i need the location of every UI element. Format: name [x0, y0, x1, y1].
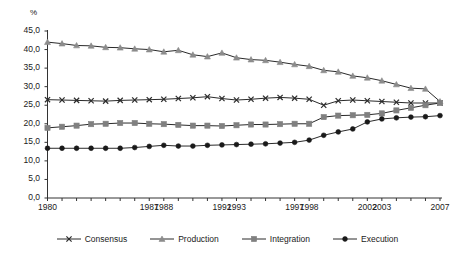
- data-point-circle: [234, 142, 239, 147]
- data-point-circle: [118, 146, 123, 151]
- legend-marker-triangle-icon: [149, 234, 175, 244]
- data-point-circle: [343, 237, 348, 242]
- data-point-square: [89, 122, 94, 127]
- legend-item-execution[interactable]: Execution: [332, 234, 398, 244]
- series-integration: [45, 100, 443, 130]
- data-point-square: [74, 123, 79, 128]
- data-point-square: [321, 114, 326, 119]
- legend-label: Execution: [361, 234, 398, 244]
- plot-area: [0, 0, 454, 257]
- data-point-circle: [220, 143, 225, 148]
- legend-label: Production: [178, 234, 219, 244]
- data-point-circle: [89, 146, 94, 151]
- legend-marker-square-icon: [241, 234, 267, 244]
- data-point-square: [292, 121, 297, 126]
- data-point-square: [248, 122, 253, 127]
- data-point-square: [277, 122, 282, 127]
- legend-marker-x-icon: [56, 234, 82, 244]
- data-point-square: [437, 100, 442, 105]
- data-point-circle: [190, 144, 195, 149]
- legend-item-production[interactable]: Production: [149, 234, 219, 244]
- legend-item-integration[interactable]: Integration: [241, 234, 310, 244]
- data-point-circle: [379, 117, 384, 122]
- data-point-x: [321, 103, 326, 108]
- data-point-circle: [409, 115, 414, 120]
- chart-legend: ConsensusProductionIntegrationExecution: [0, 234, 454, 244]
- data-point-square: [161, 122, 166, 127]
- data-point-square: [251, 236, 256, 241]
- data-point-triangle: [219, 50, 225, 55]
- data-point-square: [336, 113, 341, 118]
- data-point-circle: [103, 146, 108, 151]
- legend-label: Integration: [270, 234, 310, 244]
- data-point-square: [307, 121, 312, 126]
- data-point-circle: [423, 114, 428, 119]
- series-line: [48, 42, 441, 101]
- legend-marker-circle-icon: [332, 234, 358, 244]
- data-point-square: [190, 123, 195, 128]
- data-point-circle: [45, 146, 50, 151]
- data-point-circle: [307, 138, 312, 143]
- series-consensus: [45, 94, 443, 108]
- data-point-circle: [74, 146, 79, 151]
- series-execution: [45, 113, 442, 150]
- data-point-circle: [161, 143, 166, 148]
- data-point-circle: [205, 143, 210, 148]
- data-point-square: [408, 105, 413, 110]
- data-point-square: [234, 123, 239, 128]
- data-point-circle: [336, 130, 341, 135]
- data-point-circle: [263, 141, 268, 146]
- data-point-square: [379, 111, 384, 116]
- data-point-circle: [249, 142, 254, 147]
- legend-label: Consensus: [85, 234, 128, 244]
- data-point-circle: [321, 133, 326, 138]
- data-point-triangle: [175, 47, 181, 52]
- data-point-square: [147, 121, 152, 126]
- data-point-circle: [350, 127, 355, 132]
- data-point-square: [176, 122, 181, 127]
- data-point-circle: [394, 115, 399, 120]
- data-point-square: [59, 124, 64, 129]
- data-point-circle: [176, 144, 181, 149]
- data-point-circle: [147, 144, 152, 149]
- data-point-square: [118, 120, 123, 125]
- data-point-circle: [278, 141, 283, 146]
- data-point-square: [263, 122, 268, 127]
- data-point-square: [423, 103, 428, 108]
- data-point-square: [132, 120, 137, 125]
- data-point-square: [45, 125, 50, 130]
- data-point-circle: [365, 120, 370, 125]
- line-chart: % 0,05,010,015,020,025,030,035,040,045,0…: [0, 0, 454, 257]
- data-point-circle: [438, 113, 443, 118]
- data-point-circle: [60, 146, 65, 151]
- data-point-square: [350, 113, 355, 118]
- data-point-square: [205, 123, 210, 128]
- series-production: [45, 39, 444, 104]
- data-point-triangle: [45, 39, 51, 44]
- data-point-square: [394, 108, 399, 113]
- data-point-circle: [292, 140, 297, 145]
- data-point-circle: [132, 145, 137, 150]
- data-point-square: [103, 121, 108, 126]
- data-point-square: [219, 123, 224, 128]
- data-point-square: [365, 112, 370, 117]
- legend-item-consensus[interactable]: Consensus: [56, 234, 128, 244]
